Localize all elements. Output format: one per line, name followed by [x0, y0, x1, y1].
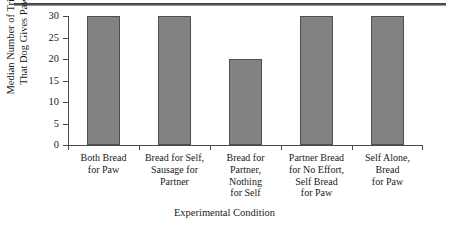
x-axis-category-label-line: for Paw — [68, 164, 139, 176]
x-axis-category-label-line: for No Effort, — [281, 164, 352, 176]
x-axis-category-label-line: Self Bread — [281, 176, 352, 188]
y-axis-tick-label: 0 — [54, 138, 59, 151]
bar — [229, 59, 262, 145]
x-axis-title: Experimental Condition — [0, 207, 449, 218]
x-axis-category-label: Partner Breadfor No Effort,Self Breadfor… — [281, 152, 352, 199]
x-axis-category-label-line: Partner, — [210, 164, 281, 176]
x-axis-tick — [352, 145, 353, 150]
x-axis-category-label-line: for Self — [210, 187, 281, 199]
x-axis-tick — [210, 145, 211, 150]
x-axis-category-label: Both Breadfor Paw — [68, 152, 139, 176]
x-axis-line — [68, 145, 423, 146]
x-axis-tick — [422, 145, 423, 150]
y-axis-tick-label: 5 — [54, 117, 59, 130]
x-axis-category-label: Self Alone,Breadfor Paw — [352, 152, 423, 187]
y-axis-tick: 15 — [63, 81, 68, 82]
y-axis-tick: 10 — [63, 102, 68, 103]
y-axis-tick-label: 10 — [49, 95, 60, 108]
x-axis-category-label: Bread forPartner,Nothingfor Self — [210, 152, 281, 199]
y-axis-tick: 25 — [63, 38, 68, 39]
bar — [158, 16, 191, 145]
y-axis-title-line: Median Number of Trials — [5, 0, 18, 111]
x-axis-category-label-line: Bread for — [210, 152, 281, 164]
bar-chart-figure: Median Number of Trials That Dog Gives P… — [0, 0, 449, 230]
y-axis-tick: 20 — [63, 59, 68, 60]
x-axis-category-label-line: for Paw — [281, 187, 352, 199]
x-axis-category-label-line: Partner Bread — [281, 152, 352, 164]
bar — [87, 16, 120, 145]
x-axis-tick — [68, 145, 69, 150]
y-axis-tick-label: 30 — [49, 9, 60, 22]
y-axis-title-line: That Dog Gives Paw — [18, 0, 31, 111]
plot-area: 302520151050 — [68, 16, 423, 145]
page-top-rule — [14, 3, 446, 6]
x-axis-category-label-line: Bread for Self, — [139, 152, 210, 164]
x-axis-tick — [139, 145, 140, 150]
x-axis-category-label-line: Both Bread — [68, 152, 139, 164]
x-axis-category-label: Bread for Self,Sausage forPartner — [139, 152, 210, 187]
y-axis-tick: 30 — [63, 16, 68, 17]
x-axis-category-label-line: Self Alone, — [352, 152, 423, 164]
x-axis-category-label-line: Sausage for — [139, 164, 210, 176]
bar — [371, 16, 404, 145]
x-axis-category-label-line: Partner — [139, 176, 210, 188]
y-axis-tick: 5 — [63, 124, 68, 125]
x-axis-category-label-line: for Paw — [352, 176, 423, 188]
y-axis-tick-label: 25 — [49, 31, 60, 44]
y-axis-line — [68, 16, 69, 145]
y-axis-title: Median Number of Trials That Dog Gives P… — [5, 0, 35, 111]
x-axis-category-label-line: Bread — [352, 164, 423, 176]
x-axis-category-label-line: Nothing — [210, 176, 281, 188]
bar — [300, 16, 333, 145]
y-axis-tick-label: 15 — [49, 74, 60, 87]
y-axis-tick-label: 20 — [49, 52, 60, 65]
x-axis-tick — [281, 145, 282, 150]
